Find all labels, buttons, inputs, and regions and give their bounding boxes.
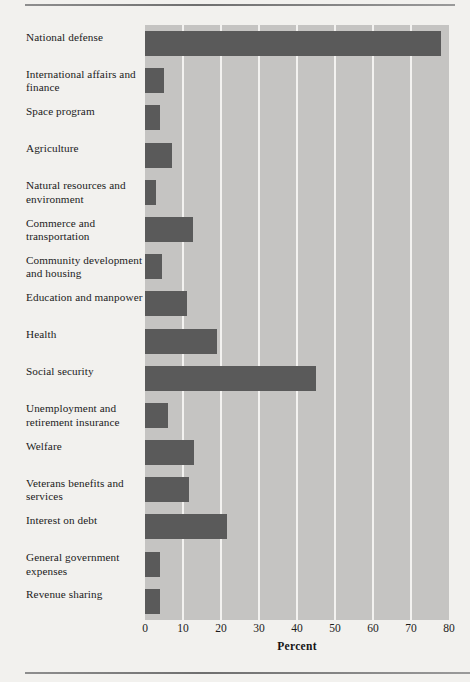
category-label: General government expenses bbox=[26, 551, 144, 578]
plot-area bbox=[145, 25, 449, 620]
category-label: Revenue sharing bbox=[26, 588, 144, 601]
bar bbox=[145, 180, 156, 205]
x-tick-40: 40 bbox=[291, 622, 303, 634]
bar bbox=[145, 31, 441, 56]
bar bbox=[145, 477, 189, 502]
bar bbox=[145, 143, 172, 168]
category-label: Veterans benefits and services bbox=[26, 477, 144, 504]
gridline-30 bbox=[258, 25, 260, 620]
bar bbox=[145, 366, 316, 391]
category-label: Social security bbox=[26, 365, 144, 378]
chart-page: National defenseInternational affairs an… bbox=[0, 0, 470, 682]
category-label: Space program bbox=[26, 105, 144, 118]
gridline-60 bbox=[372, 25, 374, 620]
category-label: Agriculture bbox=[26, 142, 144, 155]
bar bbox=[145, 329, 217, 354]
x-axis-tick-labels: 01020304050607080 bbox=[145, 622, 449, 640]
bar bbox=[145, 254, 162, 279]
bar bbox=[145, 440, 194, 465]
category-label: Health bbox=[26, 328, 144, 341]
category-label: Natural resources and environment bbox=[26, 179, 144, 206]
category-label: International affairs and finance bbox=[26, 68, 144, 95]
x-tick-30: 30 bbox=[253, 622, 265, 634]
bar bbox=[145, 291, 187, 316]
category-axis-labels: National defenseInternational affairs an… bbox=[0, 25, 140, 620]
category-label: Education and manpower bbox=[26, 291, 144, 304]
x-tick-10: 10 bbox=[177, 622, 189, 634]
x-tick-0: 0 bbox=[142, 622, 148, 634]
bar bbox=[145, 552, 160, 577]
x-tick-60: 60 bbox=[367, 622, 379, 634]
bar bbox=[145, 589, 160, 614]
gridline-40 bbox=[296, 25, 298, 620]
bar bbox=[145, 217, 193, 242]
horizontal-bar-chart: National defenseInternational affairs an… bbox=[0, 0, 470, 682]
bar bbox=[145, 403, 168, 428]
category-label: Commerce and transportation bbox=[26, 217, 144, 244]
gridline-50 bbox=[334, 25, 336, 620]
category-label: Community development and housing bbox=[26, 254, 144, 281]
bar bbox=[145, 68, 164, 93]
category-label: Unemployment and retirement insurance bbox=[26, 402, 144, 429]
category-label: Interest on debt bbox=[26, 514, 144, 527]
bar bbox=[145, 105, 160, 130]
x-tick-20: 20 bbox=[215, 622, 227, 634]
category-label: Welfare bbox=[26, 440, 144, 453]
category-label: National defense bbox=[26, 31, 144, 44]
x-axis-title: Percent bbox=[145, 640, 449, 652]
x-tick-70: 70 bbox=[405, 622, 417, 634]
x-tick-80: 80 bbox=[443, 622, 455, 634]
bar bbox=[145, 514, 227, 539]
x-tick-50: 50 bbox=[329, 622, 341, 634]
gridline-70 bbox=[410, 25, 412, 620]
